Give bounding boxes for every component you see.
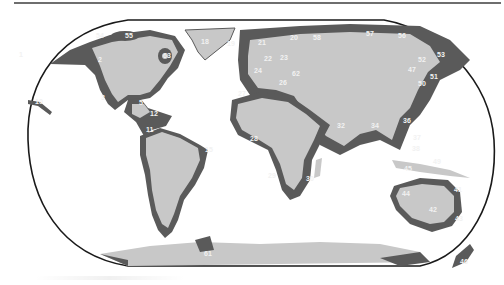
region-label: 51: [430, 73, 438, 80]
region-label: 34: [371, 122, 379, 129]
region-label: 62: [292, 70, 300, 77]
region-label: 5: [139, 99, 143, 106]
region-label: 57: [366, 30, 374, 37]
region-label: 44: [402, 190, 410, 197]
region-label: 2: [98, 56, 102, 63]
bottom-shadow: [35, 276, 185, 280]
region-label: 23: [280, 54, 288, 61]
region-label: 20: [290, 34, 298, 41]
region-label: 52: [418, 56, 426, 63]
region-label: 55: [125, 32, 133, 39]
region-label: 24: [254, 67, 262, 74]
region-label: 21: [258, 39, 266, 46]
region-label: 49: [433, 158, 441, 165]
region-label: 19: [227, 40, 235, 47]
region-label: 41: [454, 186, 462, 193]
region-label: 37: [413, 134, 421, 141]
region-label: 27: [238, 90, 246, 97]
region-label: 46: [460, 258, 468, 265]
region-label: 42: [429, 206, 437, 213]
region-label: 10: [35, 98, 43, 105]
region-label: 22: [264, 55, 272, 62]
region-label: 30: [306, 175, 314, 182]
region-label: 28: [250, 135, 258, 142]
region-label: 47: [408, 66, 416, 73]
region-label: 50: [418, 80, 426, 87]
world-map: 1 2 3 5 11 12 10 15 21 20 22 23 24 26 27…: [0, 0, 504, 285]
region-label: 3: [101, 94, 105, 101]
region-label: 26: [279, 79, 287, 86]
region-label: 29: [268, 172, 276, 179]
region-label: 38: [412, 145, 420, 152]
region-label: 63: [163, 52, 171, 59]
region-label: 18: [201, 38, 209, 45]
region-label: 56: [398, 32, 406, 39]
region-label: 36: [403, 117, 411, 124]
region-label: 53: [437, 51, 445, 58]
region-label: 45: [404, 165, 412, 172]
region-label: 61: [204, 250, 212, 257]
region-label: 15: [205, 146, 213, 153]
region-label: 32: [337, 122, 345, 129]
region-label: 54: [96, 32, 104, 39]
region-label: 12: [150, 110, 158, 117]
region-label: 58: [313, 34, 321, 41]
region-label: 1: [19, 51, 23, 58]
region-label: 43: [455, 215, 463, 222]
region-label: 11: [146, 126, 154, 133]
